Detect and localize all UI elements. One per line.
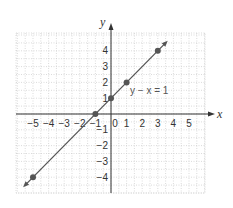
- y-tick-label: 4: [102, 45, 108, 56]
- data-point: [108, 95, 114, 101]
- y-tick-label: 3: [102, 61, 108, 72]
- y-axis-arrow-icon: [109, 23, 114, 30]
- y-tick-label: 2: [102, 77, 108, 88]
- x-tick-label: 3: [155, 118, 161, 129]
- x-tick-label: 5: [186, 118, 192, 129]
- y-tick-label: −2: [97, 140, 109, 151]
- x-tick-label: 0: [112, 118, 118, 129]
- x-tick-label: −2: [74, 118, 86, 129]
- x-tick-label: −5: [27, 118, 39, 129]
- y-axis-label: y: [99, 15, 106, 29]
- x-axis-arrow-icon: [208, 112, 215, 117]
- x-tick-label: 1: [124, 118, 130, 129]
- data-point: [124, 79, 130, 85]
- equation-label: y − x = 1: [130, 85, 169, 96]
- y-tick-label: −3: [97, 156, 109, 167]
- y-tick-label: −1: [97, 124, 109, 135]
- x-tick-label: 4: [171, 118, 177, 129]
- x-tick-label: −4: [43, 118, 55, 129]
- data-point: [30, 174, 36, 180]
- data-point: [155, 48, 161, 54]
- coordinate-plane: −5−4−3−2−10123454321−1−2−3−4 yxy − x = 1: [0, 0, 233, 208]
- y-tick-label: −4: [97, 172, 109, 183]
- data-point: [92, 111, 98, 117]
- x-axis-label: x: [216, 107, 223, 121]
- axes: [16, 23, 215, 193]
- x-tick-label: −3: [58, 118, 70, 129]
- x-tick-label: 2: [139, 118, 145, 129]
